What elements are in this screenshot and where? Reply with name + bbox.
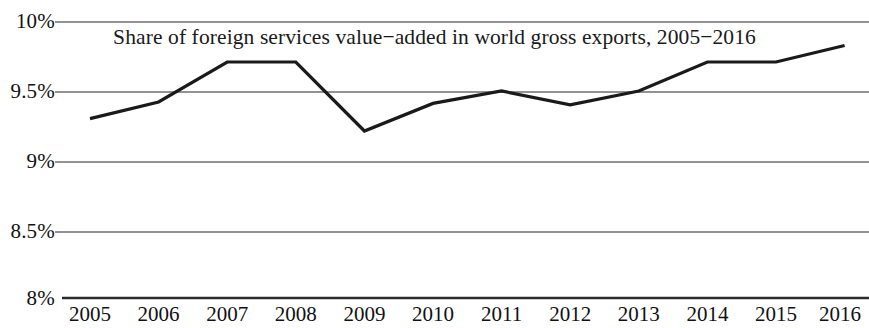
y-axis-tick-label-3: 8.5% [0,221,55,242]
data-series-line [90,46,845,132]
chart-container: 10% 9.5% 9% 8.5% 8% Share of foreign ser… [0,0,869,328]
line-chart-plot [0,0,869,328]
y-axis-tick-label-2: 9% [0,151,55,172]
y-axis-tick-label-1: 9.5% [0,81,55,102]
chart-title: Share of foreign services value−added in… [0,25,869,49]
x-axis-tick-label-2016: 2016 [800,303,869,325]
y-axis-tick-label-4: 8% [0,288,55,309]
series-polyline [90,46,845,132]
gridlines [55,22,869,232]
